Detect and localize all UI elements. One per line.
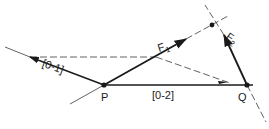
point-q	[244, 82, 249, 87]
force-f2-line-upper	[205, 5, 224, 35]
force-f2-line-lower	[247, 85, 266, 122]
link-0-1-line	[30, 57, 104, 85]
force-f1-vector	[104, 39, 186, 85]
point-intersection-top	[210, 23, 215, 28]
label-link-0-2: [0-2]	[152, 89, 174, 101]
label-p: P	[101, 91, 108, 103]
point-p	[101, 82, 106, 87]
label-f2: F2	[222, 30, 240, 49]
label-q: Q	[238, 91, 247, 103]
construction-line-diagonal	[156, 57, 230, 83]
force-f1-line-of-action	[186, 16, 228, 39]
label-link-0-1: [0-1]	[41, 57, 66, 76]
link-0-1-extension	[5, 47, 30, 57]
label-f1-subscript: 1	[164, 45, 172, 55]
force-diagram: P Q [0-1] [0-2] F1 F2	[0, 0, 269, 129]
line-p-lower-left	[70, 85, 104, 104]
